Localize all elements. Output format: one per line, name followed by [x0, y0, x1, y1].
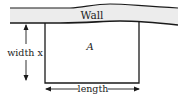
wall-label: Wall: [81, 9, 104, 21]
width-label: width x: [7, 47, 43, 58]
wall-area-diagram: Wall A width x length: [0, 0, 178, 102]
width-dimension: width x: [7, 25, 43, 80]
length-label: length: [78, 83, 109, 94]
enclosure-fence: [45, 22, 139, 83]
enclosure-rectangle: A: [45, 22, 139, 83]
area-label: A: [85, 41, 93, 52]
length-dimension: length: [46, 83, 139, 94]
wall: Wall: [10, 4, 178, 25]
